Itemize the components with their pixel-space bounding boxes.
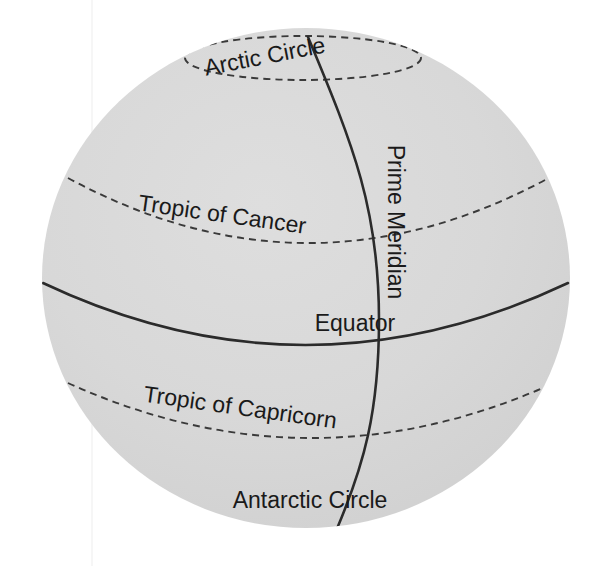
globe-sphere: [42, 28, 570, 528]
globe-svg-canvas: Arctic Circle Tropic of Cancer Prime Mer…: [0, 0, 603, 566]
prime-meridian-label: Prime Meridian: [383, 145, 409, 300]
globe-diagram-figure: Arctic Circle Tropic of Cancer Prime Mer…: [0, 0, 603, 566]
antarctic-circle-label: Antarctic Circle: [233, 487, 388, 513]
equator-label: Equator: [315, 310, 396, 336]
